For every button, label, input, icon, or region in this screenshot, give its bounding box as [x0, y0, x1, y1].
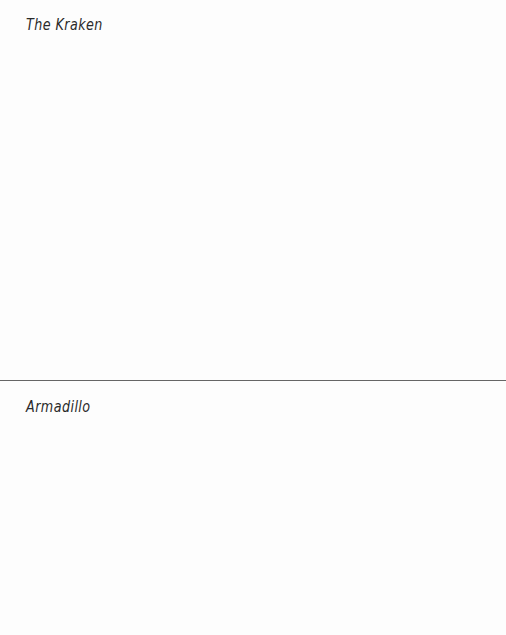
- section-bottom: Armadillo: [0, 382, 506, 635]
- divider-line: [0, 380, 506, 381]
- section-top: The Kraken: [0, 0, 506, 381]
- section-title: Armadillo: [26, 398, 91, 416]
- section-title: The Kraken: [26, 16, 103, 34]
